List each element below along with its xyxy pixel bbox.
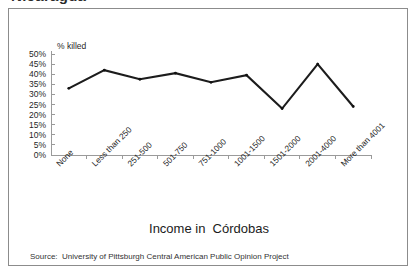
y-tick-label: 30% [29, 89, 46, 99]
y-tick-label: 20% [29, 110, 46, 120]
x-category-label: 2001-4000 [303, 133, 338, 168]
x-category-label: 501-750 [161, 140, 190, 169]
y-tick-label: 25% [29, 100, 46, 110]
series-line-killed [69, 64, 353, 108]
y-axis-tick-marks [51, 54, 55, 155]
clipped-heading-text: Nicaragua [11, 0, 86, 4]
data-point [103, 69, 106, 72]
x-category-label: 251-500 [125, 140, 154, 169]
data-point [67, 87, 70, 90]
y-tick-label: 15% [29, 120, 46, 130]
data-point [174, 72, 177, 75]
data-point [210, 81, 213, 84]
x-category-label: 751-1000 [196, 136, 228, 168]
y-axis-tick-labels: 0%5%10%15%20%25%30%35%40%45%50% [29, 49, 46, 160]
data-point [281, 107, 284, 110]
data-point [316, 63, 319, 66]
y-tick-label: 5% [34, 140, 47, 150]
y-tick-label: 50% [29, 49, 46, 59]
clipped-heading-strip: Nicaragua [0, 0, 418, 7]
data-point [245, 74, 248, 77]
x-category-label: 1501-2000 [267, 133, 302, 168]
y-tick-label: 35% [29, 79, 46, 89]
y-axis-caption: % killed [57, 41, 87, 51]
series-data-points [67, 63, 354, 110]
x-category-label: More than 4001 [339, 120, 387, 168]
y-tick-label: 0% [34, 150, 47, 160]
source-note: Source: University of Pittsburgh Central… [30, 252, 289, 261]
y-tick-label: 10% [29, 130, 46, 140]
data-point [138, 78, 141, 81]
figure-frame: 0%5%10%15%20%25%30%35%40%45%50% NoneLess… [8, 8, 408, 266]
x-axis-title: Income in Córdobas [9, 221, 409, 236]
y-tick-label: 40% [29, 69, 46, 79]
x-category-label: None [54, 147, 75, 168]
data-point [352, 105, 355, 108]
x-category-label: 1001-1500 [232, 133, 267, 168]
x-axis-category-labels: NoneLess than 250251-500501-750751-10001… [54, 120, 387, 168]
y-tick-label: 45% [29, 59, 46, 69]
